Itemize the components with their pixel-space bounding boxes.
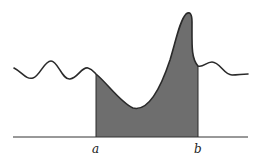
integral-diagram: a b	[0, 0, 260, 162]
shaded-area	[96, 13, 198, 137]
upper-bound-label: b	[194, 142, 202, 156]
diagram-svg: a b	[0, 0, 260, 162]
function-curve	[14, 13, 248, 109]
lower-bound-label: a	[92, 142, 99, 156]
